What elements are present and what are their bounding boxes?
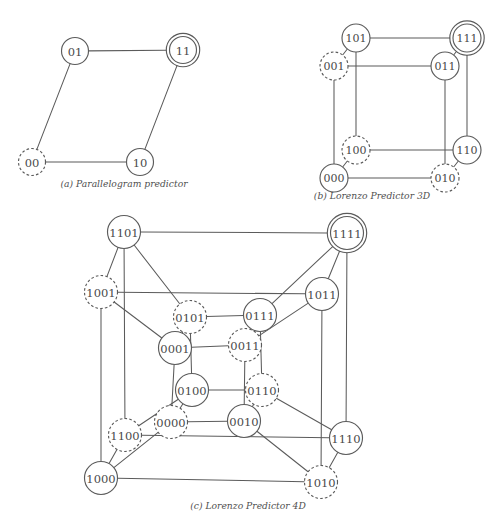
node-label: 0000 — [156, 416, 185, 430]
graph-edge — [141, 232, 328, 233]
graph-edge — [191, 346, 228, 348]
node-label: 011 — [435, 60, 456, 73]
node-label: 1100 — [110, 429, 139, 443]
caption-panel-c: (c) Lorenzo Predictor 4D — [0, 500, 496, 511]
node-label: 110 — [457, 144, 478, 157]
graph-node-1111[interactable]: 1111 — [327, 213, 366, 252]
node-label: 000 — [324, 172, 345, 185]
graph-edge — [329, 452, 338, 467]
graph-node-1000[interactable]: 1000 — [85, 462, 118, 495]
graph-node-1101[interactable]: 1101 — [108, 216, 141, 249]
graph-node-0000[interactable]: 0000 — [155, 406, 188, 439]
panel-c-nodes: 1101111110011011010101110001001101000110… — [85, 213, 367, 498]
graph-node-1110[interactable]: 1110 — [330, 422, 363, 455]
node-label: 100 — [346, 144, 367, 157]
graph-edge — [172, 364, 174, 405]
graph-edge — [114, 302, 162, 338]
graph-edge — [134, 245, 180, 304]
panel-b-nodes: 101111001011100110000010 — [320, 21, 484, 192]
node-label: 1011 — [307, 288, 336, 302]
graph-node-0001[interactable]: 0001 — [159, 332, 192, 365]
node-label: 101 — [346, 32, 367, 45]
node-label: 11 — [176, 44, 191, 58]
node-label: 0100 — [177, 384, 206, 398]
graph-node-1010[interactable]: 1010 — [305, 466, 338, 499]
panel-lorenzo-predictor-4d: 1101111110011011010101110001001101000110… — [40, 212, 460, 527]
panel-a-nodes: 01110010 — [19, 33, 200, 175]
graph-node-0100[interactable]: 0100 — [176, 374, 209, 407]
graph-node-101[interactable]: 101 — [342, 24, 370, 52]
node-label: 1000 — [86, 472, 115, 486]
graph-node-100[interactable]: 100 — [342, 136, 370, 164]
panel-parallelogram-predictor: 01110010 — [0, 0, 248, 200]
panel-lorenzo-predictor-3d: 101111001011100110000010 — [248, 0, 496, 212]
graph-edge — [109, 449, 117, 463]
graph-edge — [321, 311, 322, 466]
graph-node-11[interactable]: 11 — [166, 33, 199, 66]
graph-edge — [124, 249, 125, 419]
graph-node-0011[interactable]: 0011 — [229, 329, 262, 362]
graph-node-011[interactable]: 011 — [431, 52, 459, 80]
graph-node-000[interactable]: 000 — [320, 164, 348, 192]
graph-edge — [346, 253, 347, 422]
caption-panel-b: (b) Lorenzo Predictor 3D — [248, 190, 496, 201]
graph-node-10[interactable]: 10 — [127, 149, 154, 176]
node-label: 0111 — [245, 309, 274, 323]
panel-a-edges — [37, 50, 177, 162]
node-label: 00 — [25, 156, 40, 170]
graph-edge — [244, 362, 245, 405]
graph-edge — [188, 421, 228, 422]
node-label: 10 — [133, 156, 148, 170]
graph-node-110[interactable]: 110 — [453, 136, 481, 164]
graph-node-1100[interactable]: 1100 — [109, 419, 142, 452]
graph-node-010[interactable]: 010 — [431, 164, 459, 192]
graph-node-0110[interactable]: 0110 — [246, 374, 279, 407]
graph-edge — [454, 52, 457, 55]
graph-edge — [343, 49, 348, 55]
graph-node-0101[interactable]: 0101 — [174, 301, 207, 334]
graph-node-111[interactable]: 111 — [450, 21, 484, 55]
node-label: 1111 — [332, 227, 361, 241]
caption-panel-a: (a) Parallelogram predictor — [0, 178, 248, 189]
node-label: 010 — [435, 172, 456, 185]
figure-root: 01110010 101111001011100110000010 110111… — [0, 0, 496, 527]
graph-edge — [260, 331, 261, 373]
graph-node-1011[interactable]: 1011 — [306, 278, 339, 311]
graph-edge — [328, 251, 339, 279]
graph-node-00[interactable]: 00 — [19, 149, 46, 176]
graph-edge — [37, 64, 70, 150]
graph-edge — [276, 398, 331, 430]
graph-node-0010[interactable]: 0010 — [228, 405, 261, 438]
graph-node-1001[interactable]: 1001 — [85, 276, 118, 309]
node-label: 0010 — [229, 415, 258, 429]
node-label: 0110 — [247, 384, 276, 398]
node-label: 1001 — [86, 286, 115, 300]
graph-edge — [206, 315, 243, 316]
graph-node-001[interactable]: 001 — [320, 52, 348, 80]
graph-edge — [180, 404, 183, 408]
graph-node-01[interactable]: 01 — [62, 38, 89, 65]
node-label: 111 — [457, 32, 478, 45]
node-label: 1101 — [109, 226, 138, 240]
graph-edge — [118, 292, 306, 294]
graph-edge — [118, 478, 305, 481]
node-label: 1010 — [306, 476, 335, 490]
node-label: 0011 — [230, 339, 259, 353]
node-label: 01 — [68, 45, 83, 59]
graph-edge — [145, 66, 177, 150]
graph-edge — [107, 247, 118, 276]
node-label: 001 — [324, 60, 345, 73]
graph-edge — [89, 50, 167, 51]
node-label: 0101 — [175, 311, 204, 325]
node-label: 0001 — [160, 342, 189, 356]
graph-edge — [343, 161, 348, 167]
graph-edge — [454, 161, 459, 167]
node-label: 1110 — [331, 432, 360, 446]
graph-node-0111[interactable]: 0111 — [244, 299, 277, 332]
